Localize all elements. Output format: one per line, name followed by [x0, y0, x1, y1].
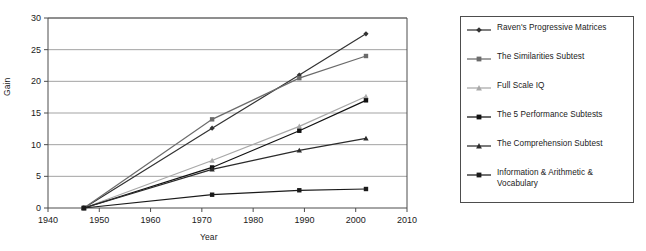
x-axis-title: Year	[200, 232, 218, 242]
legend-marker-icon	[466, 24, 492, 36]
legend-item[interactable]: The Comprehension Subtest	[466, 139, 628, 168]
data-series	[81, 94, 368, 210]
legend-item[interactable]: The Similarities Subtest	[466, 52, 628, 81]
data-point-marker	[297, 76, 301, 80]
data-point-marker	[364, 98, 368, 102]
plot-area: 0510152025301940195019601970198019902000…	[0, 0, 430, 251]
series-line	[84, 34, 366, 208]
legend-item-label: The Similarities Subtest	[497, 52, 584, 63]
chart-figure: 0510152025301940195019601970198019902000…	[0, 0, 646, 251]
data-point-marker	[210, 193, 214, 197]
data-point-marker	[297, 129, 301, 133]
y-tick-label: 20	[31, 76, 41, 86]
y-tick-label: 10	[31, 140, 41, 150]
legend-marker-icon	[466, 111, 492, 123]
data-point-marker	[477, 57, 482, 62]
x-tick-label: 2000	[346, 215, 366, 225]
data-point-marker	[297, 188, 301, 192]
legend-item[interactable]: The 5 Performance Subtests	[466, 110, 628, 139]
data-point-marker	[364, 54, 368, 58]
y-tick-label: 25	[31, 45, 41, 55]
legend-marker-icon	[466, 82, 492, 94]
data-point-marker	[82, 206, 86, 210]
x-tick-label: 1970	[192, 215, 212, 225]
x-tick-label: 2010	[397, 215, 417, 225]
data-point-marker	[476, 27, 482, 33]
x-tick-label: 1980	[243, 215, 263, 225]
y-tick-label: 5	[36, 171, 41, 181]
x-tick-label: 1940	[38, 215, 58, 225]
legend-item-label: The Comprehension Subtest	[497, 139, 602, 150]
y-tick-label: 30	[31, 13, 41, 23]
legend-item-label: Information & Arithmetic & Vocabulary	[497, 168, 628, 189]
legend-marker-icon	[466, 53, 492, 65]
legend-item-label: The 5 Performance Subtests	[497, 110, 603, 121]
data-series	[81, 31, 368, 210]
data-point-marker	[477, 173, 482, 178]
data-series	[82, 54, 368, 210]
legend-item[interactable]: Information & Arithmetic & Vocabulary	[466, 168, 628, 189]
series-line	[84, 56, 366, 208]
legend-marker-icon	[466, 169, 492, 181]
legend-marker-icon	[466, 140, 492, 152]
y-tick-label: 0	[36, 203, 41, 213]
series-line	[84, 138, 366, 208]
legend-item-label: Raven's Progressive Matrices	[497, 23, 606, 34]
y-tick-label: 15	[31, 108, 41, 118]
chart-legend: Raven's Progressive Matrices The Similar…	[460, 16, 634, 203]
data-point-marker	[363, 94, 368, 99]
data-series	[82, 187, 368, 210]
x-tick-label: 1990	[294, 215, 314, 225]
data-series	[81, 136, 368, 211]
data-point-marker	[477, 115, 482, 120]
line-chart-svg: 0510152025301940195019601970198019902000…	[0, 0, 430, 251]
data-point-marker	[364, 187, 368, 191]
y-axis-title: Gain	[2, 78, 12, 96]
legend-item-label: Full Scale IQ	[497, 81, 545, 92]
legend-item[interactable]: Full Scale IQ	[466, 81, 628, 110]
x-tick-label: 1960	[141, 215, 161, 225]
x-tick-label: 1950	[89, 215, 109, 225]
legend-item[interactable]: Raven's Progressive Matrices	[466, 23, 628, 52]
data-point-marker	[210, 117, 214, 121]
